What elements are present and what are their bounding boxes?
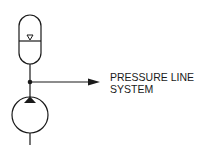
accumulator-symbol bbox=[19, 15, 41, 64]
label-line-2: SYSTEM bbox=[110, 83, 194, 95]
label-line-1: PRESSURE LINE bbox=[110, 71, 194, 83]
pump-symbol bbox=[12, 97, 48, 134]
fluid-level-icon bbox=[27, 35, 33, 40]
arrow-head-icon bbox=[88, 79, 100, 86]
pressure-line-label: PRESSURE LINE SYSTEM bbox=[110, 71, 194, 95]
